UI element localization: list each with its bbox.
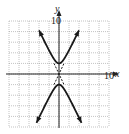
y-tick-10: 10 [51,16,61,26]
axes [6,10,119,128]
x-tick-10: 10 [104,71,114,81]
hyperbola-plot [0,0,129,134]
x-axis-label: x [115,69,119,79]
y-axis-label: y [55,4,59,14]
